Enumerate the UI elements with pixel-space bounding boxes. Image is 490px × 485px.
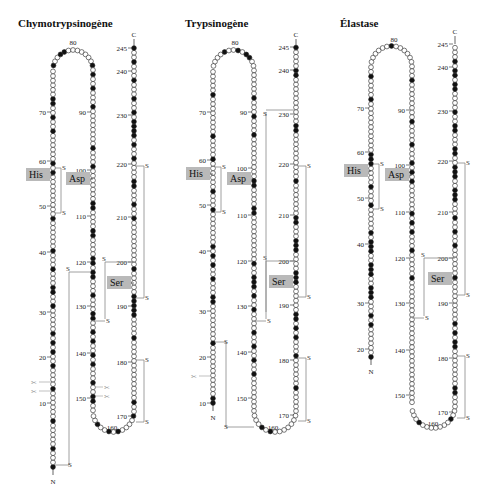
svg-text:S: S: [66, 265, 70, 273]
residue: [132, 248, 137, 253]
residue: [410, 87, 415, 92]
residue: [91, 376, 96, 381]
residue: [51, 207, 56, 212]
sulfur-label: S: [307, 293, 311, 301]
residue: [51, 285, 56, 290]
residue: [453, 151, 458, 156]
residue: [252, 395, 257, 400]
residue: [51, 423, 56, 428]
residue: [294, 220, 299, 225]
residue: [51, 161, 56, 166]
histidine-label: His: [189, 168, 203, 179]
residue: [252, 87, 257, 92]
residue: [91, 123, 96, 128]
residue: [91, 288, 96, 293]
residue: [211, 263, 216, 268]
residue-number: 170: [438, 409, 449, 417]
residue: [410, 129, 415, 134]
residue: [51, 446, 56, 451]
residue: [294, 137, 299, 142]
residue-number: 140: [76, 350, 87, 358]
residue: [91, 270, 96, 275]
residue: [369, 198, 374, 203]
residue: [453, 174, 458, 179]
residue: [252, 349, 257, 354]
residue: [211, 299, 216, 304]
residue: [211, 92, 216, 97]
residue: [211, 106, 216, 111]
scissors-icon: ✂: [191, 373, 197, 381]
residue: [132, 349, 137, 354]
residue: [410, 161, 415, 166]
residue: [51, 368, 56, 373]
residue-number: 190: [438, 300, 449, 308]
residue-number: 70: [199, 109, 207, 117]
residue: [453, 124, 458, 129]
residue: [91, 224, 96, 229]
residue: [211, 138, 216, 143]
residue: [453, 381, 458, 386]
residue: [132, 87, 137, 92]
residue: [211, 401, 216, 406]
residue: [211, 345, 216, 350]
residue: [51, 391, 56, 396]
residue: [453, 303, 458, 308]
residue-number: 130: [237, 303, 248, 311]
residue: [91, 275, 96, 280]
sulfur-label: S: [307, 417, 311, 425]
residue: [91, 344, 96, 349]
residue: [294, 142, 299, 147]
residue: [369, 267, 374, 272]
residue: [211, 217, 216, 222]
residue: [453, 193, 458, 198]
residue: [453, 289, 458, 294]
residue: [294, 146, 299, 151]
residue: [132, 64, 137, 69]
residue: [132, 253, 137, 258]
residue: [51, 308, 56, 313]
residue: [453, 363, 458, 368]
residue-number: 200: [279, 258, 290, 266]
residue-number: 245: [279, 44, 290, 52]
residue: [294, 197, 299, 202]
residue: [227, 48, 232, 53]
residue: [294, 303, 299, 308]
residue: [410, 253, 415, 258]
residue: [132, 138, 137, 143]
scissors-icon: ✂: [31, 379, 37, 387]
residue: [51, 115, 56, 120]
residue: [211, 226, 216, 231]
residue: [252, 330, 257, 335]
residue: [294, 128, 299, 133]
residue: [453, 197, 458, 202]
residue: [453, 372, 458, 377]
residue: [294, 399, 299, 404]
residue: [453, 275, 458, 280]
residue: [294, 344, 299, 349]
residue: [91, 316, 96, 321]
residue-number: 90: [79, 109, 87, 117]
residue: [91, 311, 96, 316]
residue-number: 150: [395, 392, 406, 400]
residue: [453, 266, 458, 271]
residue: [132, 207, 137, 212]
residue: [294, 395, 299, 400]
residue: [252, 133, 257, 138]
sulfur-label: S: [145, 294, 149, 302]
residue: [91, 414, 96, 419]
residue: [66, 48, 71, 53]
aspartate-label: Asp: [230, 173, 246, 184]
residue: [51, 350, 56, 355]
residue: [51, 386, 56, 391]
residue: [453, 119, 458, 124]
residue-chain: [211, 45, 299, 434]
residue: [91, 339, 96, 344]
residue: [453, 128, 458, 133]
n-terminus-label: N: [211, 414, 216, 422]
residue: [294, 386, 299, 391]
residue: [51, 345, 56, 350]
residue: [410, 331, 415, 336]
residue: [132, 216, 137, 221]
residue: [211, 88, 216, 93]
residue: [252, 257, 257, 262]
